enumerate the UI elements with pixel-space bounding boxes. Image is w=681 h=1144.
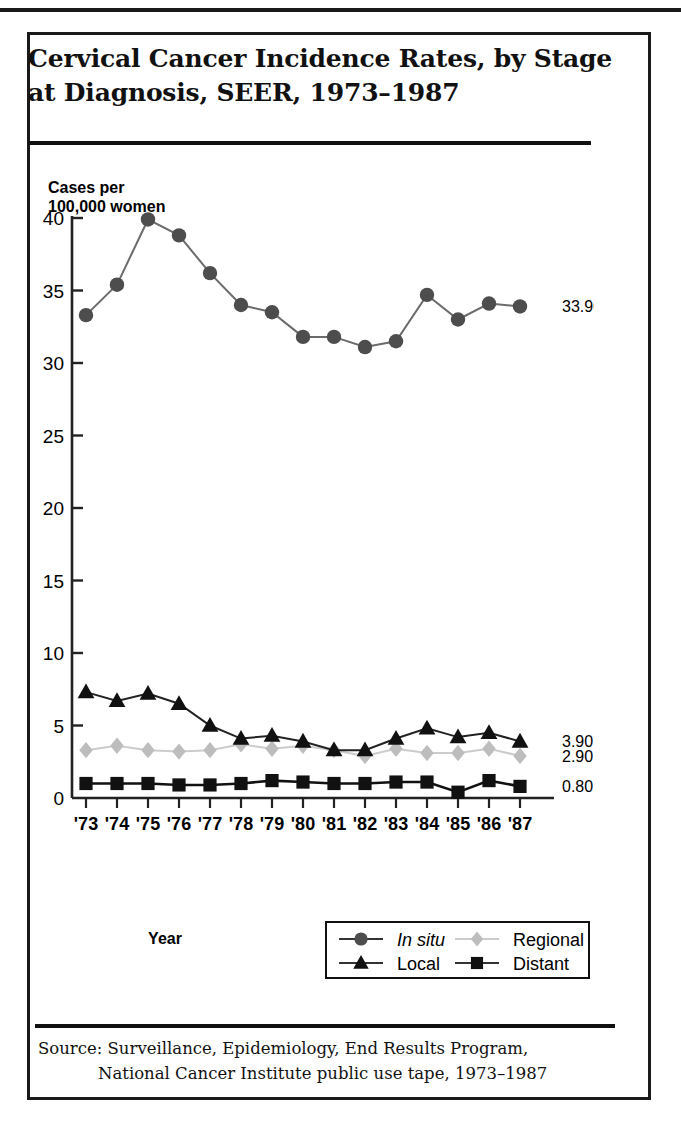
legend-svg: In situRegionalLocalDistant <box>327 923 588 977</box>
data-point-marker <box>451 786 464 799</box>
x-tick-label: '83 <box>384 814 408 834</box>
data-point-marker <box>482 774 495 787</box>
x-tick-label: '79 <box>260 814 284 834</box>
data-point-marker <box>481 724 498 739</box>
chart-plot-area: 0510152025303540'73'74'75'76'77'78'79'80… <box>28 200 594 890</box>
data-point-marker <box>172 778 185 791</box>
data-point-marker <box>79 308 93 322</box>
x-axis-title: Year <box>0 930 330 948</box>
legend-entry-regional: Regional <box>455 930 584 950</box>
legend-entry-local: Local <box>339 954 440 974</box>
data-point-marker <box>110 278 124 292</box>
data-point-marker <box>358 777 371 790</box>
x-tick-label: '77 <box>198 814 222 834</box>
series-end-label: 0.80 <box>562 778 593 795</box>
data-point-marker <box>296 330 310 344</box>
data-point-marker <box>327 777 340 790</box>
source-note-line-1: Source: Surveillance, Epidemiology, End … <box>38 1036 613 1061</box>
data-point-marker <box>172 228 186 242</box>
data-point-marker <box>420 288 434 302</box>
x-tick-label: '87 <box>508 814 532 834</box>
data-point-marker <box>202 717 219 732</box>
legend-marker-circle-icon <box>354 932 367 945</box>
series-distant: 0.80 <box>79 774 593 799</box>
legend-marker-triangle-icon <box>353 955 368 969</box>
series-local: 3.90 <box>78 684 594 757</box>
y-tick-label: 5 <box>53 716 64 737</box>
data-point-marker <box>482 741 495 757</box>
data-point-marker <box>110 777 123 790</box>
title-divider-rule <box>28 141 591 145</box>
y-tick-label: 35 <box>43 281 64 302</box>
y-tick-label: 20 <box>43 498 64 519</box>
legend-marker-square-icon <box>471 957 483 969</box>
data-point-marker <box>264 727 281 742</box>
data-point-marker <box>420 775 433 788</box>
y-tick-label: 15 <box>43 571 64 592</box>
legend-entry-distant: Distant <box>455 954 569 974</box>
legend-label: Regional <box>513 930 584 950</box>
series-in-situ: 33.90 <box>79 212 594 354</box>
y-tick-label: 30 <box>43 353 64 374</box>
data-point-marker <box>79 777 92 790</box>
data-point-marker <box>513 780 526 793</box>
data-point-marker <box>140 685 157 700</box>
chart-legend: In situRegionalLocalDistant <box>325 921 590 979</box>
data-point-marker <box>389 334 403 348</box>
x-tick-label: '82 <box>353 814 377 834</box>
data-point-marker <box>203 742 216 758</box>
data-point-marker <box>419 720 436 735</box>
data-point-marker <box>234 298 248 312</box>
data-point-marker <box>327 330 341 344</box>
figure-title-line-1: Cervical Cancer Incidence Rates, by Stag… <box>28 42 588 76</box>
legend-label: Distant <box>513 954 569 974</box>
x-tick-label: '81 <box>322 814 346 834</box>
line-chart-svg: 0510152025303540'73'74'75'76'77'78'79'80… <box>28 200 594 890</box>
x-tick-label: '80 <box>291 814 315 834</box>
data-point-marker <box>203 266 217 280</box>
data-point-marker <box>265 741 278 757</box>
data-point-marker <box>451 312 465 326</box>
figure-title-line-2: at Diagnosis, SEER, 1973–1987 <box>28 76 588 110</box>
x-tick-label: '78 <box>229 814 253 834</box>
series-end-label: 33.90 <box>562 298 594 315</box>
x-tick-label: '74 <box>105 814 129 834</box>
x-tick-label: '84 <box>415 814 439 834</box>
data-point-marker <box>141 742 154 758</box>
series-end-label: 2.90 <box>562 748 593 765</box>
data-point-marker <box>79 742 92 758</box>
data-point-marker <box>110 738 123 754</box>
data-point-marker <box>296 775 309 788</box>
data-point-marker <box>451 745 464 761</box>
data-point-marker <box>358 340 372 354</box>
x-tick-label: '86 <box>477 814 501 834</box>
data-point-marker <box>265 305 279 319</box>
x-tick-label: '73 <box>74 814 98 834</box>
x-tick-label: '85 <box>446 814 470 834</box>
data-point-marker <box>141 777 154 790</box>
data-point-marker <box>513 748 526 764</box>
source-note: Source: Surveillance, Epidemiology, End … <box>38 1036 613 1086</box>
x-tick-label: '76 <box>167 814 191 834</box>
source-divider-rule <box>35 1024 615 1028</box>
data-point-marker <box>141 212 155 226</box>
legend-label: In situ <box>397 930 445 950</box>
data-point-marker <box>420 745 433 761</box>
data-point-marker <box>513 299 527 313</box>
y-tick-label: 25 <box>43 426 64 447</box>
data-point-marker <box>234 777 247 790</box>
y-tick-label: 10 <box>43 643 64 664</box>
data-point-marker <box>78 684 95 699</box>
legend-marker-diamond-icon <box>471 931 483 946</box>
data-point-marker <box>482 296 496 310</box>
y-tick-label: 0 <box>53 788 64 809</box>
source-note-line-2: National Cancer Institute public use tap… <box>38 1061 613 1086</box>
data-point-marker <box>172 743 185 759</box>
data-point-marker <box>203 778 216 791</box>
data-point-marker <box>265 774 278 787</box>
page-top-rule <box>0 8 681 12</box>
y-tick-label: 40 <box>43 208 64 229</box>
legend-entry-in-situ: In situ <box>339 930 445 950</box>
y-axis-title-line-1: Cases per <box>48 178 165 197</box>
series-end-label: 3.90 <box>562 733 593 750</box>
